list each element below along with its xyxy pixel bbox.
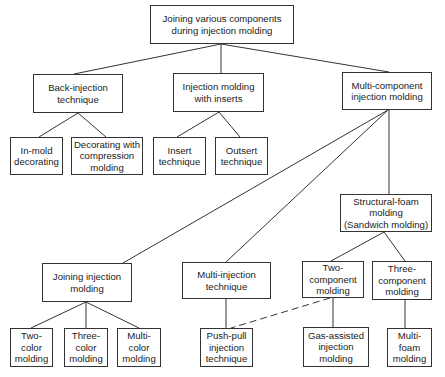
edge-root-to-multicomp <box>221 44 389 72</box>
edge-multicomp-to-joininj <box>123 110 388 263</box>
node-gas-assisted: Gas-assisted injection molding <box>303 327 369 367</box>
edge-structfoam-to-threecomp <box>384 232 405 261</box>
edge-inserts-to-outsert <box>219 112 240 137</box>
edge-back-to-inmold <box>39 113 78 137</box>
diagram-canvas: Joining various components during inject… <box>0 0 445 377</box>
connector-lines <box>0 0 445 377</box>
node-outsert-technique: Outsert technique <box>215 137 268 175</box>
node-back-injection: Back-injection technique <box>33 74 123 113</box>
node-root: Joining various components during inject… <box>150 5 294 44</box>
edge-multicomp-to-multiinj <box>226 110 388 262</box>
node-two-color: Two- color molding <box>10 328 53 367</box>
edge-joininj-to-twocolor <box>31 302 86 328</box>
node-joining-injection: Joining injection molding <box>42 263 132 302</box>
node-multi-foam: Multi- foam molding <box>387 328 432 367</box>
node-two-component: Two- component molding <box>302 261 364 298</box>
node-three-component: Three- component molding <box>372 261 432 300</box>
edge-back-to-decor <box>78 113 106 137</box>
node-multi-component: Multi-component injection molding <box>342 72 432 110</box>
node-in-mold-decorating: In-mold decorating <box>10 137 63 175</box>
edge-twocomp-to-pushpull <box>231 298 330 328</box>
edge-inserts-to-insert <box>177 112 219 137</box>
edge-structfoam-to-twocomp <box>331 232 384 261</box>
node-injection-with-inserts: Injection molding with inserts <box>173 73 264 112</box>
node-multi-color: Multi- color molding <box>117 328 161 367</box>
node-push-pull: Push-pull injection technique <box>200 328 253 367</box>
node-structural-foam: Structural-foam molding (Sandwich moldin… <box>340 194 432 232</box>
node-multi-injection: Multi-injection technique <box>182 262 271 299</box>
node-insert-technique: Insert technique <box>153 137 206 175</box>
edge-root-to-back <box>74 44 221 74</box>
node-decorating-compression: Decorating with compression molding <box>71 137 143 175</box>
edge-joininj-to-multicolor <box>86 302 139 328</box>
node-three-color: Three- color molding <box>64 328 108 367</box>
